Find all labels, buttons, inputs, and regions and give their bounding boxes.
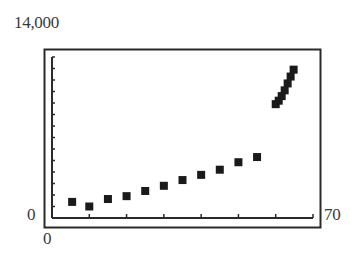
- data-point: [234, 158, 242, 166]
- data-point: [179, 176, 187, 184]
- data-point: [287, 73, 295, 81]
- data-point: [290, 66, 298, 74]
- data-points: [68, 66, 297, 211]
- data-point: [197, 171, 205, 179]
- data-point: [123, 192, 131, 200]
- data-point: [253, 153, 261, 161]
- plot-frame: [45, 50, 321, 228]
- scatter-plot: [0, 0, 357, 263]
- data-point: [68, 198, 76, 206]
- data-point: [281, 86, 289, 94]
- data-point: [141, 187, 149, 195]
- data-point: [85, 203, 93, 211]
- data-point: [216, 166, 224, 174]
- data-point: [284, 79, 292, 87]
- axes: [52, 57, 313, 218]
- data-point: [104, 195, 112, 203]
- data-point: [160, 182, 168, 190]
